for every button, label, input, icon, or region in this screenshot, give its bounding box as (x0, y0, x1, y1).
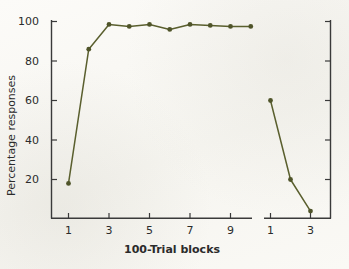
x-tick-label-left-3: 3 (99, 225, 119, 236)
data-point (147, 22, 152, 27)
x-axis-title: 100-Trial blocks (92, 244, 252, 255)
x-axis-ticks-left (69, 213, 231, 218)
figure-container: 100 80 60 40 20 1 3 5 7 9 1 3 100-Trial … (0, 0, 349, 269)
x-axis-ticks-right (271, 213, 311, 218)
data-point (248, 24, 253, 29)
data-point (228, 24, 233, 29)
x-tick-label-right-1: 1 (261, 225, 281, 236)
x-tick-label-left-5: 5 (140, 225, 160, 236)
data-point (288, 177, 293, 182)
chart-plot-area (0, 0, 349, 269)
data-point (308, 209, 313, 214)
data-point (86, 47, 91, 52)
data-line-acquisition (69, 24, 251, 183)
x-tick-label-right-3: 3 (301, 225, 321, 236)
y-axis-title: Percentage responses (6, 75, 17, 196)
right-panel-axes (264, 20, 331, 219)
data-point (127, 24, 132, 29)
series-acquisition (66, 22, 253, 186)
data-markers-acquisition (66, 22, 253, 186)
data-point (167, 27, 172, 32)
x-tick-label-left-9: 9 (221, 225, 241, 236)
x-tick-label-left-1: 1 (59, 225, 79, 236)
y-tick-label-100: 100 (13, 16, 39, 27)
data-point (188, 22, 193, 27)
right-spine-ticks (325, 22, 331, 180)
data-point (268, 98, 273, 103)
data-line-reversal (271, 101, 311, 212)
y-tick-label-80: 80 (13, 56, 39, 67)
data-point (107, 22, 112, 27)
left-panel-axes (51, 20, 252, 219)
x-tick-label-left-7: 7 (180, 225, 200, 236)
y-axis-ticks (52, 22, 58, 180)
data-point (208, 23, 213, 28)
series-reversal (268, 98, 313, 213)
data-point (66, 181, 71, 186)
